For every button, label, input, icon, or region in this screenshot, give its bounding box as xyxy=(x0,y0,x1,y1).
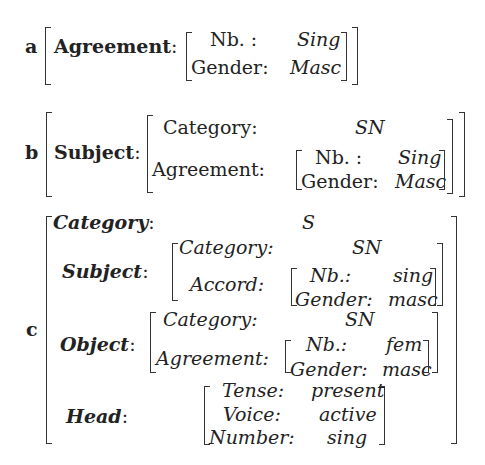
right-bracket-c-object xyxy=(432,312,438,373)
value-sn: SN xyxy=(352,238,382,257)
value-fem: fem xyxy=(386,335,422,354)
value-sing: sing xyxy=(327,428,367,447)
right-bracket-c-object-inner xyxy=(423,340,429,373)
attr-gender: Gender: xyxy=(301,172,379,191)
value-sn: SN xyxy=(355,118,385,137)
colon: : xyxy=(134,141,140,163)
feature-head: Head: xyxy=(66,407,128,426)
colon: : xyxy=(148,211,154,233)
right-bracket-a-inner xyxy=(341,32,347,81)
left-bracket-b-mid xyxy=(147,115,153,193)
attr-accord: Accord: xyxy=(190,275,264,294)
colon: : xyxy=(171,35,177,57)
right-bracket-c-outer xyxy=(451,216,457,444)
attr-agreement: Agreement: xyxy=(152,160,265,179)
example-label-c: c xyxy=(26,320,38,339)
attr-agreement: Agreement: xyxy=(156,349,269,368)
feature-name: Subject xyxy=(54,141,134,163)
right-bracket-c-subject xyxy=(437,243,443,306)
example-label-b: b xyxy=(25,143,38,162)
feature-subject: Subject: xyxy=(54,143,141,162)
right-bracket-b-mid xyxy=(447,119,453,194)
right-bracket-a-outer xyxy=(352,27,358,85)
right-bracket-c-head xyxy=(379,386,385,445)
feature-subject: Subject: xyxy=(62,262,149,281)
value-sn: SN xyxy=(345,310,375,329)
value-present: present xyxy=(311,381,384,400)
value-sing: sing xyxy=(393,266,433,285)
left-bracket-c-outer xyxy=(46,216,52,444)
attr-nb: Nb. : xyxy=(210,30,257,49)
right-bracket-c-subject-inner xyxy=(430,268,436,306)
feature-object: Object: xyxy=(60,335,136,354)
attr-number: Number: xyxy=(209,428,295,447)
left-bracket-c-subject xyxy=(172,243,178,301)
colon: : xyxy=(129,333,135,355)
attr-category: Category: xyxy=(163,118,258,137)
feature-name: Object xyxy=(60,333,129,355)
left-bracket-b-outer xyxy=(46,112,52,197)
value-active: active xyxy=(319,405,377,424)
attr-gender: Gender: xyxy=(290,360,368,379)
feature-name: Subject xyxy=(62,260,142,282)
attr-category: Category: xyxy=(163,310,258,329)
attr-tense: Tense: xyxy=(222,381,284,400)
value-masc: Masc xyxy=(290,58,341,77)
feature-name: Category xyxy=(53,211,148,233)
attr-nb: Nb.: xyxy=(310,266,351,285)
right-bracket-b-inner xyxy=(439,150,445,190)
attr-gender: Gender: xyxy=(191,58,269,77)
feature-name: Head xyxy=(66,405,122,427)
left-bracket-a-outer xyxy=(45,27,51,85)
example-label-a: a xyxy=(25,37,37,56)
value-sing: Sing xyxy=(398,148,442,167)
value-sing: Sing xyxy=(297,30,341,49)
attr-voice: Voice: xyxy=(223,405,281,424)
feature-name: Agreement xyxy=(54,35,171,57)
feature-agreement: Agreement: xyxy=(54,37,177,56)
feature-category: Category: xyxy=(53,213,155,232)
attr-nb: Nb. : xyxy=(315,148,362,167)
right-bracket-b-outer xyxy=(459,112,465,197)
attr-category: Category: xyxy=(179,238,274,257)
value-s: S xyxy=(302,213,315,232)
colon: : xyxy=(142,260,148,282)
attr-nb: Nb.: xyxy=(306,335,347,354)
attr-gender: Gender: xyxy=(295,290,373,309)
colon: : xyxy=(122,405,128,427)
